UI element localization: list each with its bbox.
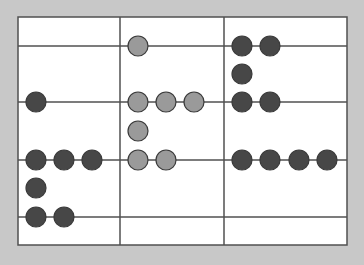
- bead-dark: [26, 150, 46, 170]
- bead-light: [156, 150, 176, 170]
- bead-dark: [232, 64, 252, 84]
- bead-dark: [289, 150, 309, 170]
- bead-light: [128, 121, 148, 141]
- bead-dark: [260, 150, 280, 170]
- diagram-canvas: [0, 0, 364, 265]
- bead-dark: [260, 36, 280, 56]
- bead-dark: [317, 150, 337, 170]
- bead-light: [156, 92, 176, 112]
- bead-dark: [26, 178, 46, 198]
- bead-light: [128, 36, 148, 56]
- bead-light: [184, 92, 204, 112]
- bead-dark: [232, 92, 252, 112]
- bead-dark: [54, 150, 74, 170]
- bead-dark: [232, 36, 252, 56]
- bead-dark: [54, 207, 74, 227]
- bead-dark: [82, 150, 102, 170]
- bead-light: [128, 150, 148, 170]
- bead-dark: [26, 92, 46, 112]
- bead-dark: [232, 150, 252, 170]
- bead-light: [128, 92, 148, 112]
- bead-grid-diagram: [0, 0, 364, 265]
- bead-dark: [26, 207, 46, 227]
- bead-dark: [260, 92, 280, 112]
